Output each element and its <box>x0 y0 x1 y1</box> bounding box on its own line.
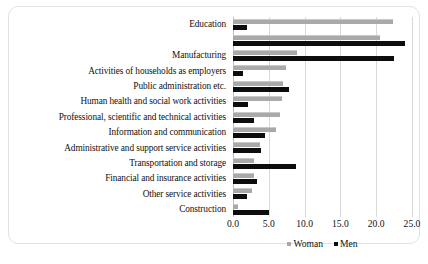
category-label: Education <box>189 19 226 29</box>
bar-woman <box>233 188 252 193</box>
bar-men <box>233 87 289 92</box>
bar-group <box>233 204 412 215</box>
bar-woman <box>233 96 282 101</box>
x-tick-label: 10.0 <box>296 218 313 229</box>
bar-group <box>233 127 412 138</box>
bar-woman <box>233 204 238 209</box>
legend-label: Men <box>340 238 358 249</box>
x-tick-label: 25.0 <box>404 218 421 229</box>
x-tick-label: 20.0 <box>368 218 385 229</box>
bar-woman <box>233 142 260 147</box>
bar-men <box>233 133 265 138</box>
legend-swatch-icon <box>334 242 338 246</box>
bar-woman <box>233 112 280 117</box>
category-label: Manufacturing <box>172 50 226 60</box>
category-axis-labels: EducationManufacturingActivities of hous… <box>8 17 230 217</box>
x-tick-label: 15.0 <box>332 218 349 229</box>
legend-item-woman: Woman <box>287 238 323 249</box>
bar-group <box>233 142 412 153</box>
chart-legend: WomanMen <box>233 236 412 250</box>
category-label: Financial and insurance activities <box>105 173 226 183</box>
bar-group <box>233 19 412 30</box>
category-label: Professional, scientific and technical a… <box>59 112 226 122</box>
category-label: Construction <box>179 204 226 214</box>
bar-men <box>233 118 254 123</box>
bar-woman <box>233 81 283 86</box>
bar-men <box>233 71 243 76</box>
bar-group <box>233 50 412 61</box>
bar-woman <box>233 158 254 163</box>
category-label: Human health and social work activities <box>80 96 226 106</box>
bar-men <box>233 148 261 153</box>
value-axis-ticks: 0.05.010.015.020.025.0 <box>233 218 412 232</box>
bar-group <box>233 112 412 123</box>
bar-men <box>233 102 248 107</box>
bar-men <box>233 210 269 215</box>
bar-chart: EducationManufacturingActivities of hous… <box>0 0 428 264</box>
category-label: Transportation and storage <box>129 158 226 168</box>
bar-men <box>233 179 257 184</box>
legend-label: Woman <box>293 238 323 249</box>
category-label: Administrative and support service activ… <box>64 143 226 153</box>
bar-woman <box>233 35 380 40</box>
bar-woman <box>233 19 393 24</box>
bar-men <box>233 194 247 199</box>
legend-item-men: Men <box>334 238 358 249</box>
gridline <box>412 17 413 217</box>
category-label: Activities of households as employers <box>88 66 226 76</box>
bar-group <box>233 81 412 92</box>
bar-group <box>233 65 412 76</box>
x-tick-label: 0.0 <box>227 218 239 229</box>
bar-woman <box>233 173 254 178</box>
bar-men <box>233 41 405 46</box>
category-label: Public administration etc. <box>133 81 226 91</box>
x-tick-label: 5.0 <box>263 218 275 229</box>
category-label: Other service activities <box>143 189 226 199</box>
bar-group <box>233 158 412 169</box>
legend-swatch-icon <box>287 242 291 246</box>
bar-men <box>233 25 247 30</box>
bar-woman <box>233 127 276 132</box>
bar-group <box>233 35 412 46</box>
bar-woman <box>233 65 286 70</box>
bar-men <box>233 56 394 61</box>
category-label: Information and communication <box>109 127 226 137</box>
bar-group <box>233 173 412 184</box>
bar-group <box>233 96 412 107</box>
bar-men <box>233 164 296 169</box>
bar-woman <box>233 50 297 55</box>
bar-group <box>233 188 412 199</box>
plot-area <box>233 17 412 217</box>
